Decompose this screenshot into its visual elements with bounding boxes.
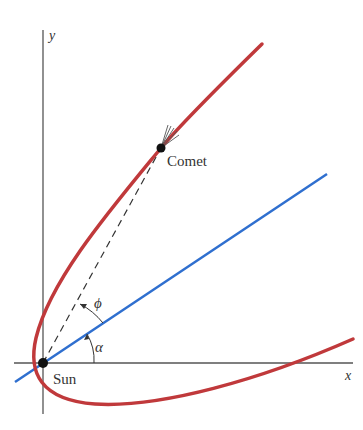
parabolic-orbit [34, 44, 353, 404]
sun-point [38, 358, 48, 368]
sun-comet-dashed-line [43, 148, 161, 363]
comet-orbit-diagram: y x Comet Sun ϕ α [0, 0, 363, 430]
alpha-label: α [95, 339, 104, 355]
phi-arrowhead-icon [80, 304, 87, 309]
comet-label: Comet [167, 153, 208, 169]
y-axis-label: y [47, 28, 56, 43]
sun-label: Sun [53, 371, 77, 387]
x-axis-label: x [344, 368, 352, 383]
phi-label: ϕ [94, 295, 102, 311]
comet-point [157, 144, 166, 153]
